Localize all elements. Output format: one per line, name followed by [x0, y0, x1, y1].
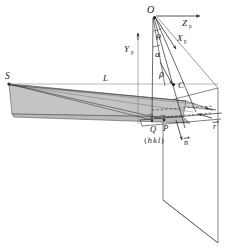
label-point-S: S	[5, 71, 10, 81]
label-axis-Yp: Y	[124, 44, 130, 54]
miller-h: h	[148, 136, 153, 145]
label-axis-Zp-sub: p	[189, 23, 192, 29]
diffraction-geometry-figure: O Z p X p Y p θ α ρ C S L Q P ( h k l	[0, 0, 229, 249]
vector-n-text: n	[184, 138, 188, 147]
point-O-marker	[153, 16, 156, 19]
label-angle-alpha: α	[155, 49, 161, 59]
label-point-P: P	[162, 123, 168, 133]
point-C-marker	[172, 83, 175, 86]
miller-close-paren: )	[161, 136, 164, 145]
label-angle-theta: θ	[156, 32, 161, 42]
arc-alpha	[153, 45, 160, 47]
point-P-marker	[163, 119, 165, 121]
label-point-Q: Q	[150, 124, 156, 134]
label-distance-rho-upper: ρ	[158, 69, 164, 79]
label-axis-Zp: Z	[182, 18, 188, 28]
edge-O-to-plane-corner	[157, 17, 218, 88]
label-axis-Xp: X	[176, 33, 183, 43]
label-axis-Xp-sub: p	[184, 38, 187, 44]
label-miller-index: ( h k l )	[144, 136, 164, 145]
label-axis-Yp-sub: p	[131, 49, 134, 55]
label-point-C: C	[178, 80, 185, 90]
label-distance-L: L	[102, 73, 108, 83]
point-Q-marker	[151, 120, 153, 122]
figure-canvas: O Z p X p Y p θ α ρ C S L Q P ( h k l	[0, 0, 229, 249]
label-point-O: O	[147, 4, 154, 15]
